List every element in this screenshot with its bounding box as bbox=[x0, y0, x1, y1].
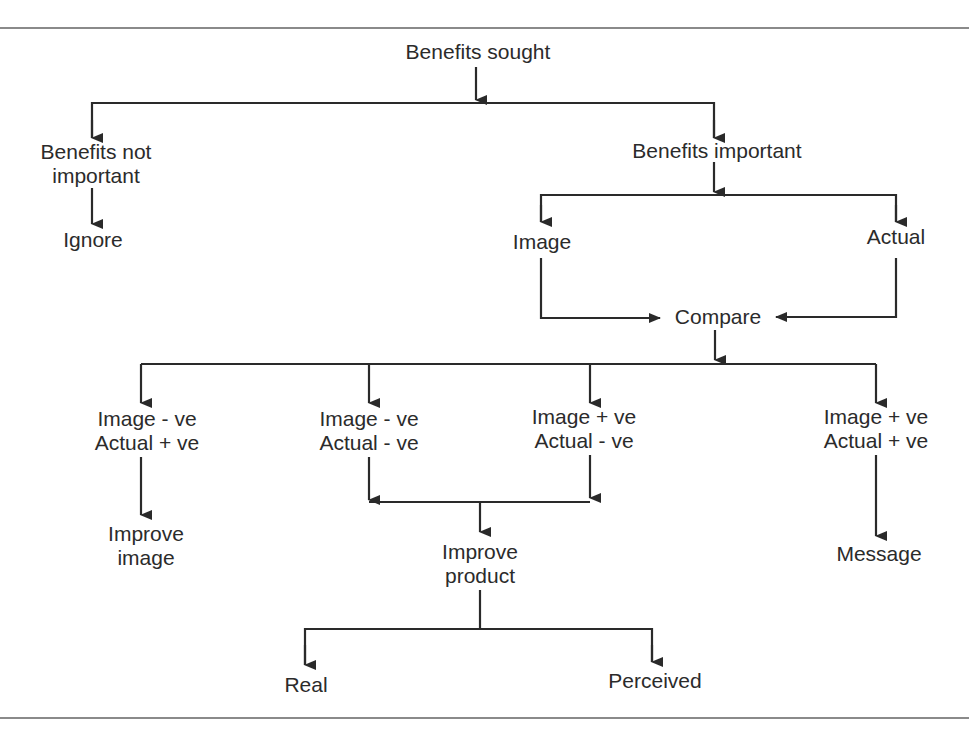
node-benefits-sought: Benefits sought bbox=[406, 40, 551, 64]
node-label-line: important bbox=[41, 164, 152, 188]
node-label-line: Improve bbox=[442, 540, 518, 564]
node-label-line: Actual + ve bbox=[95, 431, 199, 455]
node-label-line: Actual + ve bbox=[824, 429, 928, 453]
node-actual: Actual bbox=[867, 225, 925, 249]
node-perceived: Perceived bbox=[608, 669, 701, 693]
node-benefits-important: Benefits important bbox=[632, 139, 801, 163]
node-label-line: product bbox=[442, 564, 518, 588]
node-image-pos-actual-neg: Image + ve Actual - ve bbox=[532, 405, 636, 453]
node-compare: Compare bbox=[675, 305, 761, 329]
node-label-line: Actual - ve bbox=[319, 431, 418, 455]
node-label-line: Actual - ve bbox=[532, 429, 636, 453]
node-real: Real bbox=[284, 673, 327, 697]
node-image: Image bbox=[513, 230, 571, 254]
node-ignore: Ignore bbox=[63, 228, 123, 252]
node-label-line: Improve bbox=[108, 522, 184, 546]
node-label-line: Image + ve bbox=[824, 405, 928, 429]
flowchart-connectors bbox=[0, 0, 969, 729]
node-label-line: Image + ve bbox=[532, 405, 636, 429]
node-label-line: Image - ve bbox=[95, 407, 199, 431]
node-image-neg-actual-pos: Image - ve Actual + ve bbox=[95, 407, 199, 455]
node-improve-image: Improve image bbox=[108, 522, 184, 570]
node-label-line: image bbox=[108, 546, 184, 570]
node-label-line: Benefits not bbox=[41, 140, 152, 164]
node-message: Message bbox=[836, 542, 921, 566]
node-image-neg-actual-neg: Image - ve Actual - ve bbox=[319, 407, 418, 455]
node-improve-product: Improve product bbox=[442, 540, 518, 588]
node-label-line: Image - ve bbox=[319, 407, 418, 431]
node-benefits-not-important: Benefits not important bbox=[41, 140, 152, 188]
node-image-pos-actual-pos: Image + ve Actual + ve bbox=[824, 405, 928, 453]
